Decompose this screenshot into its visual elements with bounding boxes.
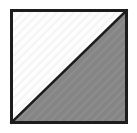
figure-canvas: Square divided by a diagonal into two sh… bbox=[0, 0, 137, 133]
diagram-svg bbox=[0, 0, 137, 133]
